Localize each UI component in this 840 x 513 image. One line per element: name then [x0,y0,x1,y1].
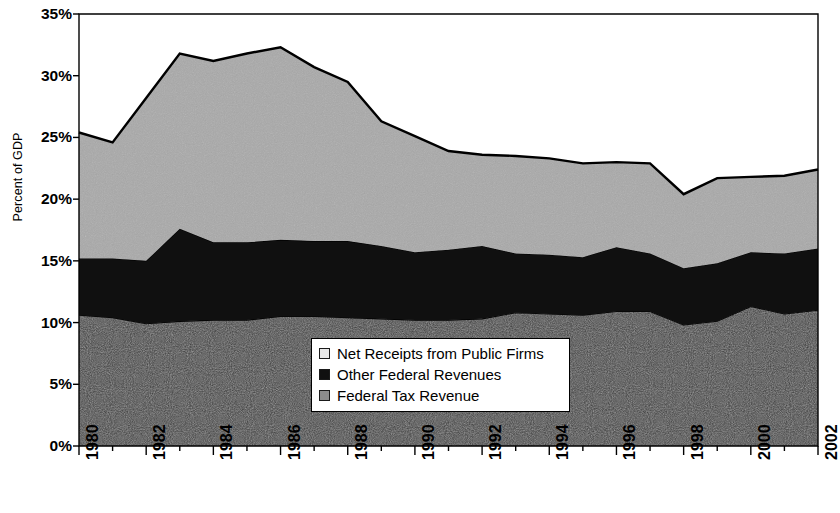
x-tick-label: 1986 [287,424,303,460]
x-tick-label: 1982 [152,424,168,460]
legend-item: Federal Tax Revenue [319,385,560,406]
x-tick-label: 1994 [555,424,571,460]
legend-label: Other Federal Revenues [337,367,501,382]
legend-item: Net Receipts from Public Firms [319,343,560,364]
x-tick-label: 1984 [219,424,235,460]
x-tick-label: 1990 [421,424,437,460]
legend-swatch-icon [319,390,330,401]
legend-label: Net Receipts from Public Firms [337,346,544,361]
legend-swatch-icon [319,348,330,359]
x-tick-label: 1988 [354,424,370,460]
chart-legend: Net Receipts from Public FirmsOther Fede… [311,338,570,412]
x-tick-label: 1980 [85,424,101,460]
x-tick-label: 1998 [690,424,706,460]
legend-item: Other Federal Revenues [319,364,560,385]
legend-swatch-icon [319,369,330,380]
x-tick-label: 1992 [488,424,504,460]
x-tick-label: 2000 [757,424,773,460]
x-tick-label: 2002 [824,424,840,460]
x-tick-label: 1996 [622,424,638,460]
legend-label: Federal Tax Revenue [337,388,479,403]
